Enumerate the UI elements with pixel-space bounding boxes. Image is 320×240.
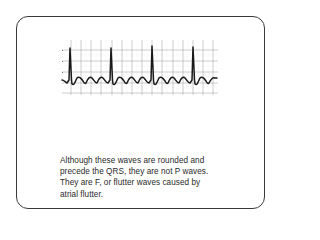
caption-line-2: precede the QRS, they are not P waves. [60, 166, 250, 177]
caption-line-4: atrial flutter. [60, 189, 250, 200]
figure-caption: Although these waves are rounded and pre… [60, 155, 250, 200]
caption-line-3: They are F, or flutter waves caused by [60, 177, 250, 188]
caption-line-1: Although these waves are rounded and [60, 155, 250, 166]
ecg-trace [62, 46, 217, 85]
